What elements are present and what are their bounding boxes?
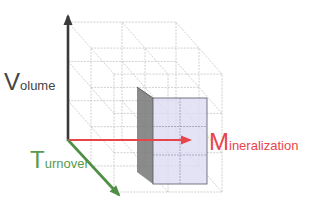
cube-grid	[0, 0, 309, 216]
turnover-rest: urnover	[45, 156, 89, 171]
highlight-side-face	[137, 87, 153, 184]
volume-axis-arrow	[64, 14, 73, 141]
axis-label-mineralization: Mineralization	[209, 130, 298, 154]
axis-label-turnover: Turnover	[30, 148, 89, 172]
axis-label-volume: Volume	[4, 70, 55, 94]
mineralization-rest: ineralization	[229, 138, 298, 153]
volume-rest: olume	[20, 78, 55, 93]
mineralization-initial: M	[209, 128, 229, 155]
turnover-initial: T	[30, 146, 45, 173]
volume-initial: V	[4, 68, 20, 95]
lattice-diagram: Volume Mineralization Turnover	[0, 0, 309, 216]
